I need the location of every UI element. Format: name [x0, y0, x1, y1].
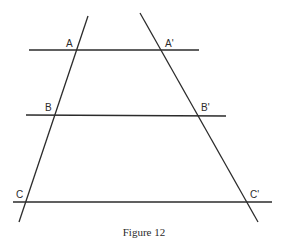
figure-caption: Figure 12: [123, 226, 165, 238]
point-label-b: B: [45, 102, 52, 113]
transversal-left-line: [19, 16, 88, 222]
parallel-line-middle: [26, 115, 226, 116]
geometry-figure: A A' B B' C C' Figure 12: [0, 0, 288, 244]
point-label-b-prime: B': [201, 102, 210, 113]
point-label-c: C: [16, 189, 23, 200]
transversal-right-line: [140, 13, 258, 222]
point-label-c-prime: C': [250, 189, 259, 200]
point-label-a-prime: A': [165, 38, 174, 49]
point-label-a: A: [66, 38, 73, 49]
